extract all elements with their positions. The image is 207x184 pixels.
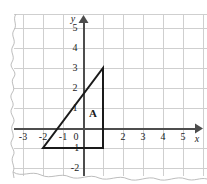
x-tick-label--2: -2 xyxy=(39,132,47,142)
x-tick-label--3: -3 xyxy=(19,132,27,142)
axes xyxy=(14,15,203,176)
y-axis-arrow xyxy=(79,15,89,23)
y-tick-label--2: -2 xyxy=(71,163,79,173)
y-tick-label--1: -1 xyxy=(71,143,79,153)
x-tick-label-4: 4 xyxy=(161,132,166,142)
x-tick-label-3: 3 xyxy=(141,132,146,142)
x-tick-label-5: 5 xyxy=(181,132,186,142)
y-tick-label-1: 1 xyxy=(73,103,78,113)
coordinate-plane-figure: -3 -2 -1 0 2 3 4 5 5 4 3 2 1 -1 -2 x y A xyxy=(0,0,207,184)
y-tick-label-2: 2 xyxy=(73,83,78,93)
torn-edge-bottom xyxy=(13,172,207,180)
x-tick-label-2: 2 xyxy=(121,132,126,142)
x-axis-arrow xyxy=(195,124,203,134)
y-axis-label: y xyxy=(71,14,75,24)
x-tick-label--1: -1 xyxy=(59,132,67,142)
torn-paper-edge xyxy=(11,14,207,180)
y-tick-label-3: 3 xyxy=(73,63,78,73)
x-axis-label: x xyxy=(195,134,199,144)
torn-edge-left xyxy=(11,14,16,178)
grid-and-shape-svg xyxy=(0,0,207,184)
grid-lines xyxy=(14,14,207,176)
y-tick-label-5: 5 xyxy=(73,23,78,33)
y-tick-label-4: 4 xyxy=(73,43,78,53)
x-tick-label-0: 0 xyxy=(74,132,79,142)
triangle-a-label: A xyxy=(89,108,97,118)
